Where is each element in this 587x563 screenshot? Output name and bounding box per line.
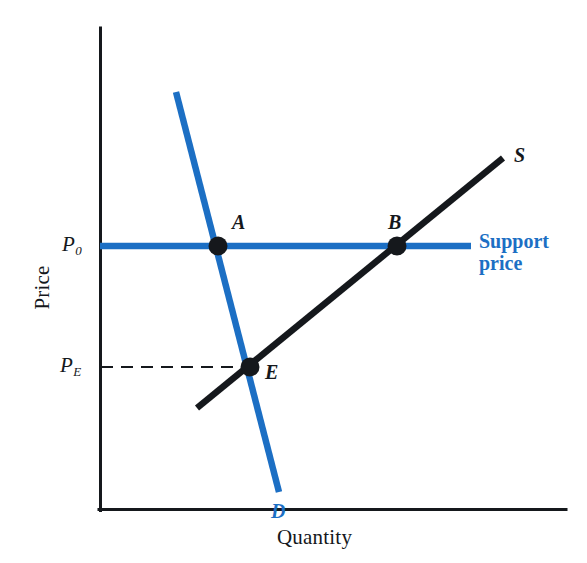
supply-curve-label: S — [514, 145, 525, 165]
point-label-b: B — [388, 212, 401, 232]
y-tick-base-p0: P — [62, 232, 75, 256]
supply-demand-price-support-figure: Price Quantity P0 PE A B E S D Support p… — [0, 0, 587, 563]
point-marker-e — [241, 358, 260, 377]
point-marker-b — [388, 237, 407, 256]
support-price-label: Support price — [479, 231, 579, 274]
demand-curve — [176, 92, 279, 492]
demand-curve-label: D — [271, 501, 285, 521]
x-axis-title: Quantity — [277, 527, 352, 548]
y-tick-label-p0: P0 — [62, 234, 82, 257]
point-marker-a — [209, 237, 228, 256]
y-axis-title: Price — [32, 243, 53, 333]
point-label-e: E — [265, 362, 278, 382]
plot-canvas — [0, 0, 587, 563]
y-tick-base-pe: P — [60, 353, 73, 377]
y-tick-subscript-pe: E — [73, 364, 81, 379]
y-tick-subscript-p0: 0 — [75, 243, 82, 258]
y-tick-label-pe: PE — [60, 355, 81, 378]
point-label-a: A — [232, 212, 245, 232]
